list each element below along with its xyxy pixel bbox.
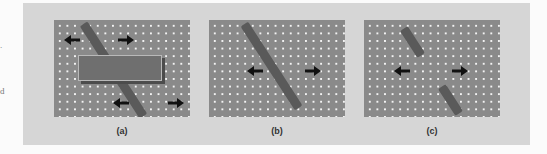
margin-text-fragment: d [0, 86, 5, 96]
arrow-right-icon [448, 66, 468, 76]
arrow-left-icon [247, 66, 267, 76]
margin-text-fragment: . [0, 40, 2, 50]
bar-segment-upper [400, 26, 425, 58]
occluding-rectangle [78, 55, 162, 81]
arrow-right-icon [164, 98, 184, 108]
arrow-left-icon [394, 66, 414, 76]
arrow-right-icon [114, 35, 134, 45]
caption-a: (a) [54, 126, 190, 136]
arrow-left-icon [113, 98, 133, 108]
caption-c: (c) [364, 126, 500, 136]
bar-segment-lower [438, 84, 463, 116]
panel-b [209, 20, 345, 117]
caption-b: (b) [209, 126, 345, 136]
panel-c [364, 20, 500, 117]
arrow-left-icon [64, 35, 84, 45]
panel-a [54, 20, 190, 117]
arrow-right-icon [301, 66, 321, 76]
